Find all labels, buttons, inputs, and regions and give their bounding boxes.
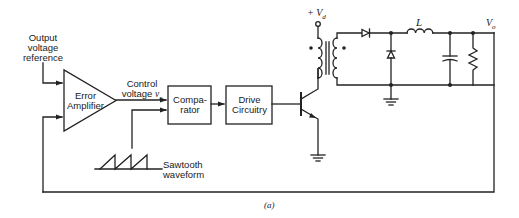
drive-circuitry-label: Drive Circuitry [226,95,273,115]
polarity-dot-primary [309,46,313,50]
supply-terminal-icon [316,22,321,27]
label-line: rator [168,105,212,115]
supply-voltage-label: + Vd [307,8,326,22]
resistor-icon [469,33,477,85]
transformer-secondary-icon [333,33,494,85]
junction-dot [389,83,393,87]
junction-dot [448,31,452,35]
polarity-dot-secondary [342,46,346,50]
ground-icon [384,85,398,105]
label-text: + V [307,7,322,18]
figure-caption: (a) [264,200,275,210]
sawtooth-waveform-label: Sawtooth waveform [163,160,204,180]
sawtooth-waveform-icon [95,155,162,169]
output-voltage-reference-label: Output voltage reference [18,33,68,63]
output-voltage-label: Vo [486,18,496,32]
comparator-label: Compa- rator [168,95,212,115]
feedback-input-wire [43,115,63,193]
inductor-label: L [416,17,422,27]
label-text: voltage [122,88,153,99]
label-subscript: d [322,13,326,21]
comparator-to-drive-wire [211,102,225,107]
capacitor-icon [443,33,457,85]
symbol-subscript: c [159,94,162,102]
label-line: voltage vc [112,89,172,103]
rectifier-diode-icon [362,29,407,37]
label-line: reference [18,53,68,63]
control-voltage-label: Control voltage vc [112,79,172,103]
transformer-primary-icon [318,38,322,78]
junction-dot [471,31,475,35]
junction-dot [448,83,452,87]
junction-dot [389,31,393,35]
label-subscript: o [492,23,496,31]
transistor-icon [301,69,318,155]
freewheeling-diode-icon [387,33,395,85]
error-amplifier-label: Error Amplifier [63,91,108,111]
reference-input-wire [43,63,63,86]
ground-icon [311,155,325,161]
sawtooth-wire [132,108,167,149]
label-line: Circuitry [226,105,273,115]
label-line: waveform [163,170,204,180]
label-line: Amplifier [63,101,108,111]
transformer-core-icon [326,42,329,74]
